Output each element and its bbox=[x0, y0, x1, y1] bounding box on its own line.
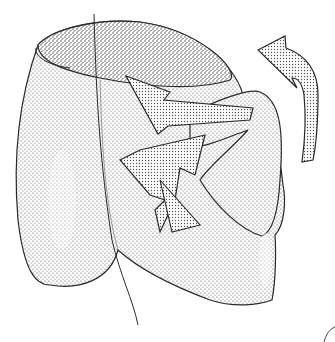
illustration bbox=[0, 0, 335, 342]
corner-curve-mark bbox=[324, 327, 335, 342]
